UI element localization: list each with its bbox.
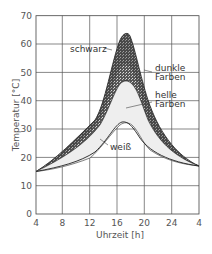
svg-text:10: 10 [21,181,33,191]
label-schwarz: schwarz [70,44,107,54]
x-axis-ticks: 4 8 12 16 20 24 4 [33,218,202,228]
svg-text:4: 4 [33,218,39,228]
svg-text:12: 12 [84,218,95,228]
svg-text:30: 30 [21,124,33,134]
svg-text:20: 20 [21,153,33,163]
label-dunkle-2: Farben [155,72,186,82]
svg-text:0: 0 [26,209,32,219]
svg-text:70: 70 [21,11,33,21]
svg-text:4: 4 [196,218,202,228]
svg-text:16: 16 [111,218,123,228]
svg-text:20: 20 [139,218,151,228]
label-weiss: weiß [110,142,131,152]
svg-text:24: 24 [166,218,178,228]
y-axis-ticks: 0 10 20 30 40 50 60 70 [21,11,33,219]
svg-text:50: 50 [21,68,33,78]
svg-text:8: 8 [59,218,65,228]
y-axis-label: Temperatur [°C] [11,79,21,152]
x-axis-label: Uhrzeit [h] [96,230,144,240]
svg-text:60: 60 [21,39,33,49]
temperature-chart: schwarz dunkle Farben helle Farben weiß … [0,0,212,254]
label-helle-2: Farben [155,99,186,109]
svg-text:40: 40 [21,96,33,106]
